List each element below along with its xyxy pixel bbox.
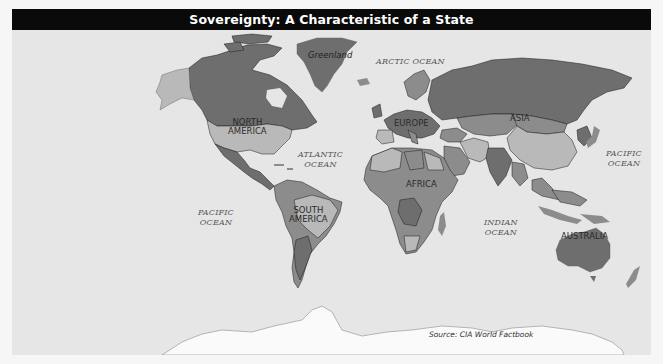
world-map-graphic [12, 30, 651, 355]
label-australia: AUSTRALIA [561, 232, 608, 241]
map-title: Sovereignty: A Characteristic of a State [12, 9, 651, 30]
land-alaska [156, 68, 194, 110]
label-pacific-ocean-west: PACIFIC OCEAN [198, 208, 234, 228]
label-africa: AFRICA [406, 180, 437, 189]
label-atlantic-ocean: ATLANTIC OCEAN [298, 150, 343, 170]
land-new-zealand [626, 266, 640, 288]
land-antarctica [162, 306, 624, 355]
label-pacific-ocean-east: PACIFIC OCEAN [606, 149, 642, 169]
land-greenland [297, 38, 357, 92]
label-indian-ocean: INDIAN OCEAN [484, 218, 518, 238]
land-indonesia [538, 206, 610, 224]
land-russia [428, 58, 632, 124]
source-credit: Source: CIA World Factbook [429, 330, 533, 339]
label-arctic-ocean: ARCTIC OCEAN [376, 57, 445, 67]
land-madagascar [438, 212, 446, 236]
world-map: NORTH AMERICA SOUTH AMERICA EUROPE ASIA … [12, 30, 651, 355]
land-asia [440, 114, 592, 206]
land-africa [364, 148, 458, 254]
label-asia: ASIA [510, 114, 530, 123]
label-south-america: SOUTH AMERICA [289, 206, 328, 224]
land-europe [372, 70, 440, 144]
label-north-america: NORTH AMERICA [228, 118, 267, 136]
label-europe: EUROPE [394, 119, 429, 128]
land-south-america [274, 180, 342, 288]
label-greenland: Greenland [308, 50, 352, 60]
